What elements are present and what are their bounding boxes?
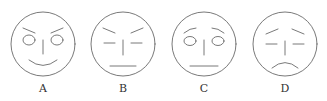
face-d: D <box>253 12 317 95</box>
face-a-right-brow <box>51 28 63 33</box>
face-d-right-brow <box>292 29 304 34</box>
face-a: A <box>11 12 75 95</box>
faces-figure: A B C D <box>0 0 327 101</box>
face-c-right-eye <box>212 37 224 46</box>
face-b: B <box>91 12 155 95</box>
face-b-right-brow <box>131 28 143 33</box>
face-b-left-brow <box>103 28 115 33</box>
face-a-mouth-smile <box>29 60 57 66</box>
face-c-right-brow <box>212 28 224 33</box>
face-d-left-brow <box>266 29 278 34</box>
face-c: C <box>172 12 236 95</box>
face-a-right-eye <box>51 35 63 45</box>
face-a-left-eye <box>23 35 35 45</box>
face-b-label: B <box>119 82 127 95</box>
face-c-label: C <box>200 82 208 95</box>
face-a-label: A <box>38 82 48 95</box>
face-d-label: D <box>281 82 290 95</box>
face-c-left-eye <box>184 37 196 46</box>
face-d-mouth-frown <box>272 63 298 69</box>
face-c-left-brow <box>184 28 196 33</box>
face-a-left-brow <box>23 28 35 33</box>
